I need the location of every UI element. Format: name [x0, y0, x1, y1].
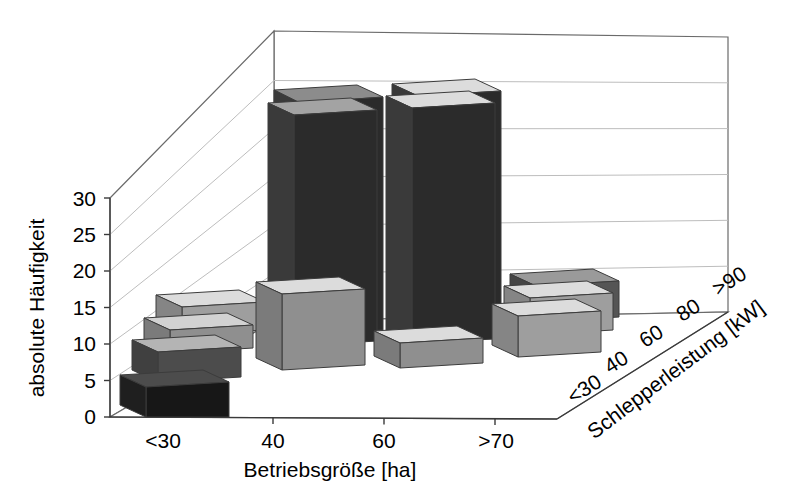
bar-x60-z60[interactable] [374, 326, 483, 368]
bar-front [282, 289, 365, 370]
bar-front [412, 103, 495, 343]
x-tick-label-lt30: <30 [145, 429, 181, 452]
x-tick-labels: <30 40 60 >70 [145, 429, 514, 452]
x-axis-title: Betriebsgröße [ha] [244, 458, 417, 481]
bar-front [146, 382, 229, 417]
chart-page: 0 5 10 15 20 25 30 absolute Häufigkeit <… [0, 0, 812, 495]
y-tick-label-25: 25 [73, 223, 96, 246]
bar-x40-z60[interactable] [256, 277, 365, 370]
x-tick-label-60: 60 [372, 429, 395, 452]
bar-front [518, 311, 601, 357]
y-tick-label-30: 30 [73, 187, 96, 210]
bar-x60-z80[interactable] [386, 91, 495, 343]
y-tick-label-10: 10 [73, 332, 96, 355]
x-tick-label-gt70: >70 [478, 429, 514, 452]
y-axis-title: absolute Häufigkeit [25, 219, 48, 398]
y-tick-label-5: 5 [84, 369, 96, 392]
y-tick-labels: 0 5 10 15 20 25 30 [73, 187, 96, 428]
x-tick-label-40: 40 [261, 429, 284, 452]
y-tick-label-20: 20 [73, 259, 96, 282]
y-axis-ticks [104, 198, 110, 417]
bar-x-gt70-z60[interactable] [492, 299, 601, 357]
y-tick-label-0: 0 [84, 405, 96, 428]
bar-front [400, 338, 483, 368]
three-d-bar-chart: 0 5 10 15 20 25 30 absolute Häufigkeit <… [0, 0, 812, 495]
bar-side [386, 96, 412, 343]
bar-x-lt30-z-lt30[interactable] [120, 370, 229, 417]
y-tick-label-15: 15 [73, 296, 96, 319]
bar-row-lt30 [120, 370, 229, 417]
bar-side [256, 282, 282, 370]
